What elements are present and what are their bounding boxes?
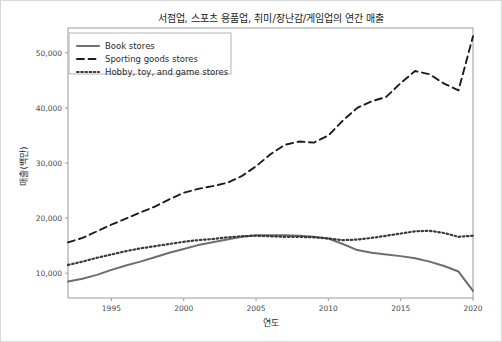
- chart-figure: 서점업, 스포츠 용품업, 취미/장난감/게임업의 연간 매출 10,00020…: [0, 0, 502, 342]
- x-axis-title: 연도: [263, 318, 279, 328]
- x-axis-ticks: 199520002005201020152020: [102, 298, 483, 313]
- x-tick-label: 2000: [174, 304, 193, 313]
- x-tick-label: 1995: [102, 304, 121, 313]
- x-tick-label: 2020: [463, 304, 482, 313]
- y-axis-ticks: 10,00020,00030,00040,00050,000: [36, 49, 68, 278]
- x-tick-label: 2010: [319, 304, 338, 313]
- legend-label-2: Sporting goods stores: [105, 54, 198, 64]
- y-tick-label: 30,000: [36, 159, 62, 168]
- y-tick-label: 40,000: [36, 104, 62, 113]
- y-axis-title: 매출(백만): [19, 146, 29, 185]
- chart-legend: Book storesSporting goods storesHobby, t…: [69, 33, 231, 77]
- x-tick-label: 2005: [246, 304, 265, 313]
- line-chart: 서점업, 스포츠 용품업, 취미/장난감/게임업의 연간 매출 10,00020…: [1, 1, 502, 342]
- y-tick-label: 20,000: [36, 214, 62, 223]
- y-tick-label: 50,000: [36, 49, 62, 58]
- y-tick-label: 10,000: [36, 269, 62, 278]
- legend-label-3: Hobby, toy, and game stores: [105, 67, 229, 77]
- legend-label-1: Book stores: [105, 41, 155, 51]
- x-tick-label: 2015: [391, 304, 410, 313]
- chart-title: 서점업, 스포츠 용품업, 취미/장난감/게임업의 연간 매출: [158, 12, 385, 24]
